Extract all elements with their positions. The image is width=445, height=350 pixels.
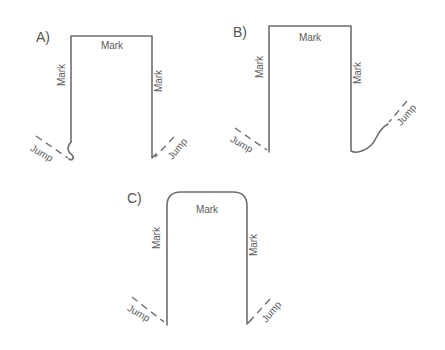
panel-c: C) Mark Mark Mark Jump Jump: [125, 190, 283, 325]
panel-c-label: C): [127, 190, 142, 206]
panel-b-label: B): [233, 24, 247, 40]
panel-c-mark-left: Mark: [151, 226, 162, 249]
panel-a-label: A): [36, 29, 50, 45]
panel-a-jump-left: Jump: [28, 142, 55, 164]
panel-a: A) Mark Mark Mark Jump Jump: [28, 29, 189, 164]
panel-a-mark-path: [71, 36, 156, 158]
panel-b: B) Mark Mark Mark Jump Jump: [228, 24, 418, 155]
panel-c-mark-top: Mark: [196, 204, 219, 215]
panel-a-jump-right: Jump: [165, 136, 189, 162]
panel-b-jump-left: Jump: [228, 133, 255, 155]
panel-a-mark-left: Mark: [56, 63, 67, 86]
panel-a-left-curl: [68, 142, 73, 160]
panel-c-jump-left: Jump: [125, 302, 152, 324]
panel-c-jump-right: Jump: [259, 299, 283, 325]
panel-b-jump-right: Jump: [394, 102, 418, 128]
panel-a-mark-right: Mark: [153, 69, 164, 92]
panel-c-mark-right: Mark: [248, 233, 259, 256]
panel-a-mark-top: Mark: [101, 40, 124, 51]
mark-jump-diagram: A) Mark Mark Mark Jump Jump B) Mark Mark…: [0, 0, 445, 350]
panel-b-mark-right: Mark: [352, 61, 363, 84]
panel-b-mark-path: [269, 26, 388, 152]
panel-b-mark-left: Mark: [254, 55, 265, 78]
panel-b-mark-top: Mark: [299, 32, 322, 43]
